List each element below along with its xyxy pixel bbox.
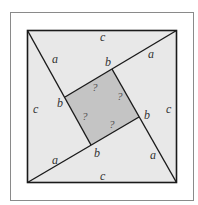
label-b-top: b [105,55,111,69]
label-b-bottom: b [94,146,100,160]
label-unknown-left: ? [82,110,88,122]
label-c-left: c [33,102,39,116]
label-a-bottomleft: a [52,153,58,167]
label-a-bottomright: a [150,148,156,162]
pythagorean-diagram: c c c c a a a a b b b b ? ? ? ? [0,0,198,205]
label-a-topleft: a [52,52,58,66]
label-unknown-bottom: ? [109,118,115,130]
label-c-top: c [100,30,106,44]
label-b-left: b [57,96,63,110]
label-b-right: b [144,108,150,122]
label-c-bottom: c [100,169,106,183]
label-unknown-right: ? [117,90,123,102]
label-unknown-top: ? [92,81,98,93]
label-a-topright: a [148,47,154,61]
label-c-right: c [166,102,172,116]
